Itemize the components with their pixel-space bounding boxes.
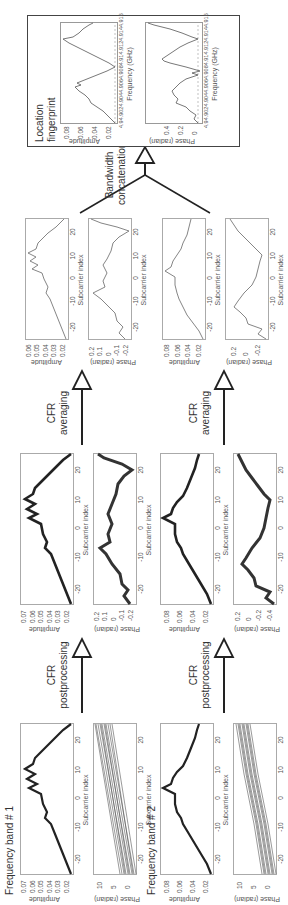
fingerprint-title: Locationfingerprint — [34, 98, 58, 142]
band1-avg-amp-xlabel: Subcarrier index — [77, 220, 84, 340]
band2-avg-phase-plot — [225, 218, 269, 340]
band2-post-phase-plot — [233, 453, 277, 605]
band1-raw-phase-xticks: -20-1001020 — [137, 725, 144, 875]
band2-post-phase-ylabel: Phase (radian) — [234, 626, 280, 633]
band1-avg-phase-ylabel: Phase (radian) — [90, 359, 136, 366]
fingerprint-phase-xlabel: Frequency (GHz) — [211, 24, 218, 124]
step-concatenation-label: Bandwidthconcatenation — [104, 145, 128, 205]
fingerprint-phase-xticks: 4.94.9024.9044.9064.9084.914.9124.9144.9… — [203, 20, 209, 128]
band1-title: Frequency band # 1 — [4, 806, 15, 895]
band1-post-phase-plot — [93, 453, 137, 605]
band1-avg-amp-xticks: -20-1001020 — [69, 220, 76, 340]
band1-raw-phase-yticks: 1050 — [93, 882, 135, 889]
step-averaging-label-band1: CFRaveraging — [46, 383, 70, 443]
step-averaging-label-band2: CFRaveraging — [188, 383, 212, 443]
diagram-canvas: Frequency band # 1 Amplitude 0.070.060.0… — [0, 0, 288, 905]
band1-raw-amp-xlabel: Subcarrier index — [82, 725, 89, 875]
band2-post-amp-xlabel: Subcarrier index — [222, 455, 229, 605]
band2-avg-phase-yticks: 0.20-0.2 — [228, 345, 264, 356]
band2-avg-phase-xlabel: Subcarrier index — [277, 220, 284, 340]
band1-raw-amp-yticks: 0.070.060.050.040.030.02 — [20, 880, 71, 893]
fingerprint-phase-plot — [145, 22, 203, 124]
band2-avg-amp-ylabel: Amplitude — [169, 359, 200, 366]
band1-post-phase-xlabel: Subcarrier index — [145, 455, 152, 605]
band1-post-amp-yticks: 0.070.060.050.040.030.02 — [20, 610, 71, 623]
arrow-right-icon-postprocessing-band2 — [212, 635, 236, 715]
band2-title: Frequency band # 2 — [146, 806, 157, 895]
band2-avg-phase-xticks: -20-1001020 — [269, 220, 276, 340]
band2-avg-amp-xlabel: Subcarrier index — [214, 220, 221, 340]
band2-post-amp-yticks: 0.080.060.040.02 — [160, 610, 212, 623]
band2-raw-amp-xlabel: Subcarrier index — [222, 725, 229, 875]
band1-raw-phase-plot — [93, 723, 137, 875]
concatenation-connector-icon — [70, 145, 220, 215]
band2-raw-amp-yticks: 0.080.060.040.02 — [160, 880, 212, 893]
band2-post-phase-yticks: 0.20-0.2-0.4 — [233, 610, 275, 621]
band1-post-amplitude-plot — [20, 453, 74, 605]
band2-avg-amp-xticks: -20-1001020 — [206, 220, 213, 340]
band2-raw-phase-ylabel: Phase (radian) — [234, 896, 280, 903]
arrow-right-icon-averaging-band1 — [70, 367, 94, 447]
band2-raw-phase-yticks: 1050 — [233, 882, 275, 889]
band1-post-phase-ylabel: Phase (radian) — [94, 626, 140, 633]
band2-avg-amplitude-plot — [162, 218, 206, 340]
fingerprint-amp-xlabel: Frequency (GHz) — [126, 24, 133, 124]
band2-post-amp-ylabel: Amplitude — [169, 626, 200, 633]
band1-raw-phase-ylabel: Phase (radian) — [94, 896, 140, 903]
arrow-right-icon-averaging-band2 — [212, 367, 236, 447]
band2-avg-phase-ylabel: Phase (radian) — [226, 359, 272, 366]
band1-avg-amp-yticks: 0.060.050.040.030.02 — [25, 344, 67, 357]
band1-post-amp-xlabel: Subcarrier index — [82, 455, 89, 605]
band2-post-phase-xticks: -20-1001020 — [277, 455, 284, 605]
step-postprocessing-label-band2: CFRpostprocessing — [188, 640, 212, 710]
band1-post-amp-ylabel: Amplitude — [29, 626, 60, 633]
fingerprint-amp-yticks: 0.080.060.040.02 — [60, 126, 116, 139]
band2-avg-amp-yticks: 0.080.060.040.02 — [162, 344, 204, 357]
band1-post-phase-xticks: -20-1001020 — [137, 455, 144, 605]
band1-avg-phase-plot — [88, 218, 132, 340]
band2-raw-amp-xticks: -20-1001020 — [214, 725, 221, 875]
band1-raw-amp-ylabel: Amplitude — [29, 896, 60, 903]
band1-avg-phase-xlabel: Subcarrier index — [140, 220, 147, 340]
band1-post-amp-xticks: -20-1001020 — [74, 455, 81, 605]
band1-raw-amp-xticks: -20-1001020 — [74, 725, 81, 875]
band2-raw-phase-xticks: -20-1001020 — [277, 725, 284, 875]
arrow-right-icon-postprocessing-band1 — [70, 635, 94, 715]
band1-avg-phase-xticks: -20-1001020 — [132, 220, 139, 340]
band2-raw-phase-plot — [233, 723, 277, 875]
band2-raw-amplitude-plot — [160, 723, 214, 875]
fingerprint-phase-yticks: 0.40.20 — [160, 126, 202, 135]
band1-raw-amplitude-plot — [20, 723, 74, 875]
step-postprocessing-label-band1: CFRpostprocessing — [46, 640, 70, 710]
fingerprint-amplitude-plot — [60, 22, 118, 124]
band1-avg-amp-ylabel: Amplitude — [31, 359, 62, 366]
band1-post-phase-yticks: 0.20.10-0.1-0.2 — [93, 610, 135, 621]
fingerprint-phase-ylabel: Phase (radian) — [149, 138, 195, 145]
fingerprint-amp-ylabel: Amplitude — [69, 138, 100, 145]
band1-avg-amplitude-plot — [25, 218, 69, 340]
band2-post-amplitude-plot — [160, 453, 214, 605]
band1-avg-phase-yticks: 0.20.10-0.1-0.2 — [88, 345, 130, 356]
band2-raw-amp-ylabel: Amplitude — [169, 896, 200, 903]
band2-post-amp-xticks: -20-1001020 — [214, 455, 221, 605]
fingerprint-amp-xticks: 4.94.9024.9044.9064.9084.914.9124.9144.9… — [118, 20, 124, 128]
